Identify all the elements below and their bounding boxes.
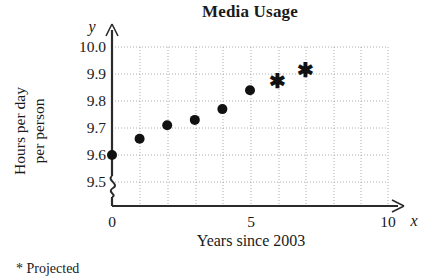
chart-footnote: * Projected bbox=[16, 261, 79, 277]
x-axis-variable-label: x bbox=[409, 212, 417, 229]
x-axis-title: Years since 2003 bbox=[96, 232, 406, 250]
axis-break-squiggle-icon bbox=[110, 176, 115, 197]
y-axis-variable-label: y bbox=[86, 18, 96, 36]
data-point-actual-1 bbox=[135, 134, 145, 144]
y-tick-label-10.0: 10.0 bbox=[79, 38, 106, 55]
y-tick-label-9.7: 9.7 bbox=[87, 119, 107, 136]
y-tick-label-9.8: 9.8 bbox=[87, 92, 107, 109]
axes bbox=[112, 30, 398, 206]
data-point-actual-2 bbox=[162, 120, 172, 130]
y-tick-label-9.6: 9.6 bbox=[87, 146, 107, 163]
data-point-actual-4 bbox=[217, 104, 227, 114]
data-point-projected-7: ✱ bbox=[297, 59, 314, 81]
x-tick-labels: 0 5 10 bbox=[108, 213, 396, 230]
x-tick-label-5: 5 bbox=[247, 213, 255, 230]
data-markers: ✱✱ bbox=[107, 59, 314, 160]
data-point-actual-5 bbox=[245, 85, 255, 95]
grid-lines bbox=[112, 47, 388, 205]
y-tick-label-9.5: 9.5 bbox=[87, 173, 107, 190]
y-tick-labels: 10.0 9.9 9.8 9.7 9.6 9.5 bbox=[79, 38, 106, 190]
x-tick-label-0: 0 bbox=[108, 213, 116, 230]
data-point-actual-3 bbox=[190, 115, 200, 125]
data-point-actual-0 bbox=[107, 150, 117, 160]
y-tick-label-9.9: 9.9 bbox=[87, 65, 107, 82]
x-tick-label-10: 10 bbox=[380, 213, 396, 230]
data-point-projected-6: ✱ bbox=[269, 70, 286, 92]
